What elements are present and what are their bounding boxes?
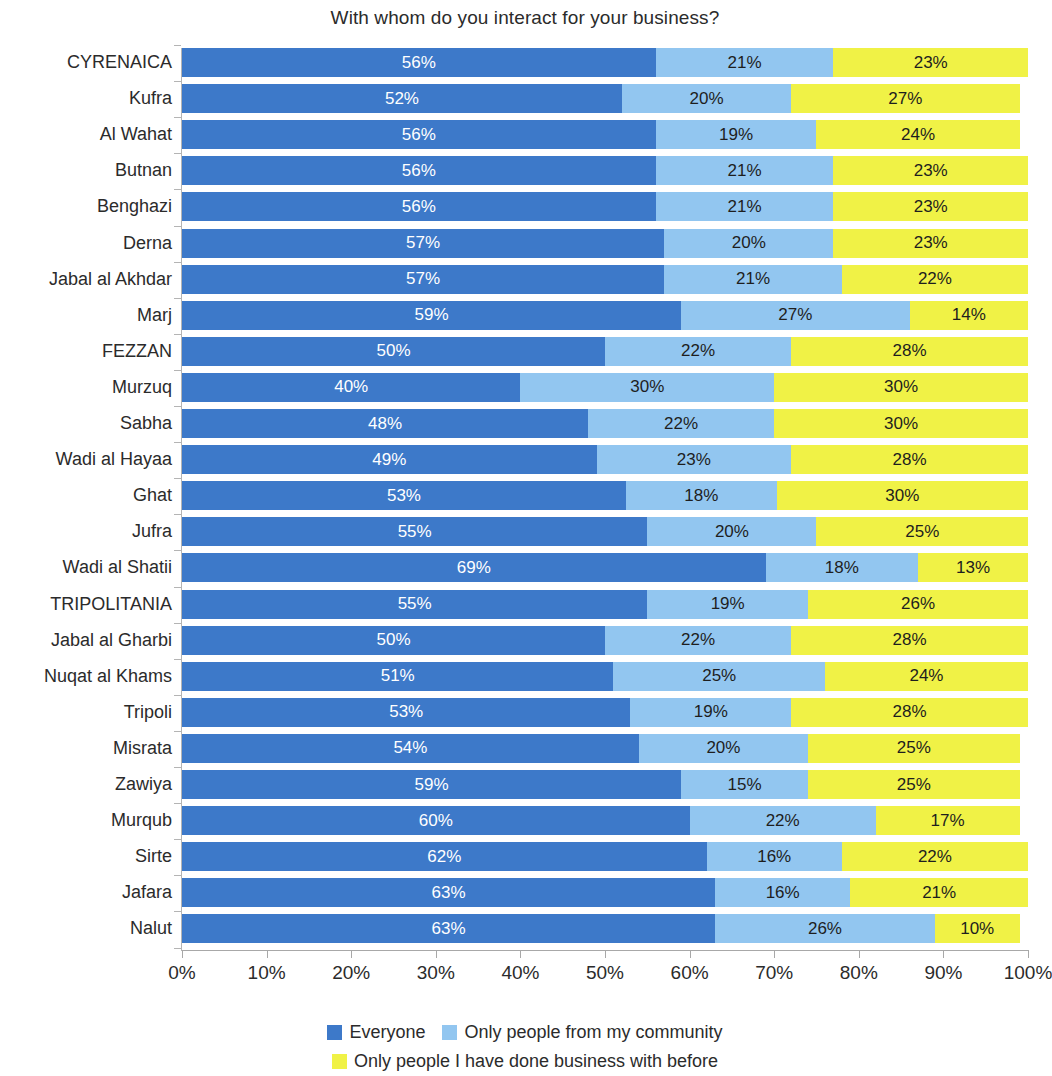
bar-row: 53%19%28% (182, 698, 1028, 727)
bar-value-label: 53% (389, 702, 423, 722)
bar-segment: 40% (182, 373, 520, 402)
bar-segment: 22% (842, 265, 1028, 294)
bar-row: 48%22%30% (182, 409, 1028, 438)
bar-segment: 21% (664, 265, 842, 294)
bar-value-label: 30% (884, 377, 918, 397)
x-axis-tick (436, 950, 437, 958)
y-axis-tick-label: Ghat (0, 485, 172, 506)
bar-segment: 22% (842, 842, 1028, 871)
y-axis-tick (174, 478, 181, 479)
x-axis-tick-label: 60% (671, 962, 709, 984)
y-axis-tick-label: Misrata (0, 738, 172, 759)
y-axis-tick-label: Butnan (0, 160, 172, 181)
bar-segment: 26% (715, 914, 935, 943)
bar-segment: 13% (918, 553, 1028, 582)
y-axis-tick (174, 334, 181, 335)
x-axis-tick (520, 950, 521, 958)
bar-value-label: 59% (415, 775, 449, 795)
bar-segment: 28% (791, 626, 1028, 655)
bar-segment: 21% (656, 48, 834, 77)
y-axis-tick (174, 298, 181, 299)
bar-value-label: 57% (406, 269, 440, 289)
bar-value-label: 15% (728, 775, 762, 795)
bar-segment: 59% (182, 770, 681, 799)
plot-area: 56%21%23%52%20%27%56%19%24%56%21%23%56%2… (182, 48, 1028, 950)
y-axis-tick (174, 803, 181, 804)
bar-row: 57%21%22% (182, 265, 1028, 294)
bar-value-label: 16% (757, 847, 791, 867)
bar-row: 50%22%28% (182, 626, 1028, 655)
y-axis-tick-label: Sabha (0, 413, 172, 434)
bar-segment: 21% (656, 156, 834, 185)
bar-value-label: 16% (766, 883, 800, 903)
x-axis-tick-label: 50% (586, 962, 624, 984)
bar-value-label: 27% (888, 89, 922, 109)
x-axis-tick (267, 950, 268, 958)
bar-value-label: 28% (893, 341, 927, 361)
bar-segment: 56% (182, 120, 656, 149)
bar-segment: 10% (935, 914, 1020, 943)
bar-segment: 62% (182, 842, 707, 871)
bar-segment: 48% (182, 409, 588, 438)
legend-swatch-previous-business-icon (332, 1054, 347, 1069)
y-axis-tick-label: Sirte (0, 846, 172, 867)
bar-segment: 22% (588, 409, 774, 438)
bar-value-label: 13% (956, 558, 990, 578)
bar-value-label: 22% (681, 630, 715, 650)
bar-segment: 20% (664, 229, 833, 258)
bar-segment: 54% (182, 734, 639, 763)
bar-row: 57%20%23% (182, 229, 1028, 258)
bar-row: 52%20%27% (182, 84, 1028, 113)
y-axis-tick (174, 948, 181, 949)
bar-value-label: 53% (387, 486, 421, 506)
bar-segment: 49% (182, 445, 597, 474)
bar-segment: 63% (182, 878, 715, 907)
chart-title: With whom do you interact for your busin… (0, 7, 1050, 29)
bar-segment: 22% (605, 626, 791, 655)
bar-value-label: 26% (808, 919, 842, 939)
bar-value-label: 27% (778, 305, 812, 325)
bar-segment: 23% (833, 48, 1028, 77)
bar-value-label: 22% (681, 341, 715, 361)
bar-segment: 53% (182, 481, 626, 510)
y-axis-tick (174, 406, 181, 407)
y-axis-tick (174, 623, 181, 624)
bar-segment: 57% (182, 229, 664, 258)
bar-value-label: 54% (393, 738, 427, 758)
x-axis-tick (605, 950, 606, 958)
legend-label-previous-business: Only people I have done business with be… (354, 1051, 718, 1071)
y-axis-tick (174, 442, 181, 443)
x-axis-tick-label: 0% (168, 962, 195, 984)
x-axis-tick (774, 950, 775, 958)
bar-segment: 52% (182, 84, 622, 113)
x-axis-tick-label: 70% (755, 962, 793, 984)
bar-segment: 28% (791, 445, 1028, 474)
bar-segment: 17% (876, 806, 1020, 835)
bar-segment: 30% (520, 373, 774, 402)
bar-value-label: 55% (398, 522, 432, 542)
y-axis-tick-label: Nalut (0, 918, 172, 939)
bar-segment: 20% (647, 517, 816, 546)
y-axis-tick (174, 587, 181, 588)
x-axis-tick (351, 950, 352, 958)
bar-row: 60%22%17% (182, 806, 1028, 835)
bar-segment: 53% (182, 698, 630, 727)
bar-row: 54%20%25% (182, 734, 1028, 763)
y-axis-tick-label: Al Wahat (0, 124, 172, 145)
y-axis-tick (174, 767, 181, 768)
bar-value-label: 22% (664, 414, 698, 434)
bar-value-label: 50% (376, 630, 410, 650)
bar-segment: 18% (626, 481, 777, 510)
y-axis-tick (174, 370, 181, 371)
bar-value-label: 18% (684, 486, 718, 506)
y-axis-tick-label: Murzuq (0, 377, 172, 398)
bar-segment: 26% (808, 590, 1028, 619)
bar-value-label: 69% (457, 558, 491, 578)
bar-value-label: 19% (711, 594, 745, 614)
legend-item-everyone: Everyone (327, 1018, 425, 1047)
bar-segment: 69% (182, 553, 766, 582)
bar-row: 56%21%23% (182, 156, 1028, 185)
bar-row: 56%21%23% (182, 48, 1028, 77)
bar-value-label: 22% (918, 847, 952, 867)
x-axis-tick-label: 10% (248, 962, 286, 984)
